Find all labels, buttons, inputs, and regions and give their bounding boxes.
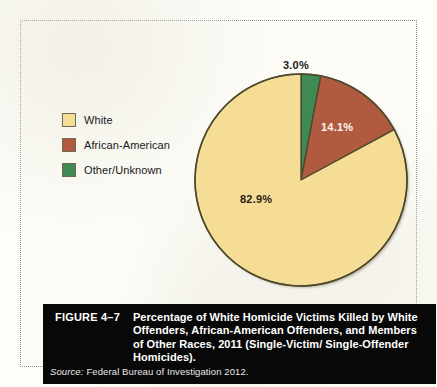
legend-item-white: White xyxy=(62,107,170,132)
pie-slices xyxy=(195,74,407,286)
legend-label-other-unknown: Other/Unknown xyxy=(84,164,162,176)
scanned-page: White African-American Other/Unknown 3.0… xyxy=(0,0,437,387)
pie-chart xyxy=(193,72,409,288)
legend-item-other-unknown: Other/Unknown xyxy=(62,157,170,182)
pie-label-african-american: 14.1% xyxy=(321,121,353,133)
pie-label-white: 82.9% xyxy=(240,193,272,205)
figure-number: FIGURE 4–7 xyxy=(55,311,120,364)
figure-source-text: Federal Bureau of Investigation 2012. xyxy=(86,366,248,377)
legend-item-african-american: African-American xyxy=(62,132,170,157)
figure-caption-block: FIGURE 4–7 Percentage of White Homicide … xyxy=(43,304,436,384)
legend-swatch-other-unknown xyxy=(62,163,76,177)
figure-frame: White African-American Other/Unknown 3.0… xyxy=(20,20,417,367)
figure-source-label: Source: xyxy=(50,366,83,377)
pie-label-other-unknown: 3.0% xyxy=(283,59,309,71)
caption-main-line: FIGURE 4–7 Percentage of White Homicide … xyxy=(55,311,428,364)
legend-label-african-american: African-American xyxy=(84,139,170,151)
pie-chart-svg xyxy=(193,72,409,288)
legend-label-white: White xyxy=(84,114,113,126)
legend-swatch-african-american xyxy=(62,138,76,152)
legend-swatch-white xyxy=(62,113,76,127)
figure-title: Percentage of White Homicide Victims Kil… xyxy=(133,311,428,364)
figure-source: Source:Federal Bureau of Investigation 2… xyxy=(50,366,249,377)
chart-legend: White African-American Other/Unknown xyxy=(62,107,170,182)
